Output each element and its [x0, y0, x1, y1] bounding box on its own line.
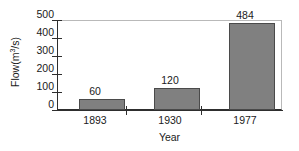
y-axis-tick-mark: [52, 110, 62, 111]
y-tick-label: 0: [26, 99, 54, 109]
x-axis-category-label: 1893: [57, 114, 133, 126]
x-axis-title: Year: [57, 131, 282, 143]
bar-chart: Flow(m3/s) 0 100 200 300 400 500 60 120 …: [0, 0, 299, 151]
bar[interactable]: [79, 99, 125, 110]
y-tick-label: 500: [26, 9, 54, 19]
y-axis-tick-labels: 0 100 200 300 400 500: [26, 14, 54, 111]
x-axis-category-label: 1977: [207, 114, 283, 126]
y-tick-label: 100: [26, 81, 54, 91]
bar[interactable]: [154, 88, 200, 110]
bar-value-label: 120: [132, 75, 208, 86]
bar-value-label: 484: [207, 10, 283, 21]
y-tick-label: 300: [26, 45, 54, 55]
y-axis-title-base: Flow(m: [9, 53, 21, 87]
y-tick-label: 200: [26, 63, 54, 73]
y-axis-title-tail: /s): [9, 37, 21, 49]
y-tick-label: 400: [26, 27, 54, 37]
y-axis-title-exponent: 3: [9, 49, 16, 53]
bar[interactable]: [229, 23, 275, 110]
x-axis-category-label: 1930: [132, 114, 208, 126]
bar-value-label: 60: [57, 86, 133, 97]
y-axis-title: Flow(m3/s): [8, 18, 22, 106]
x-axis-line: [57, 110, 283, 111]
